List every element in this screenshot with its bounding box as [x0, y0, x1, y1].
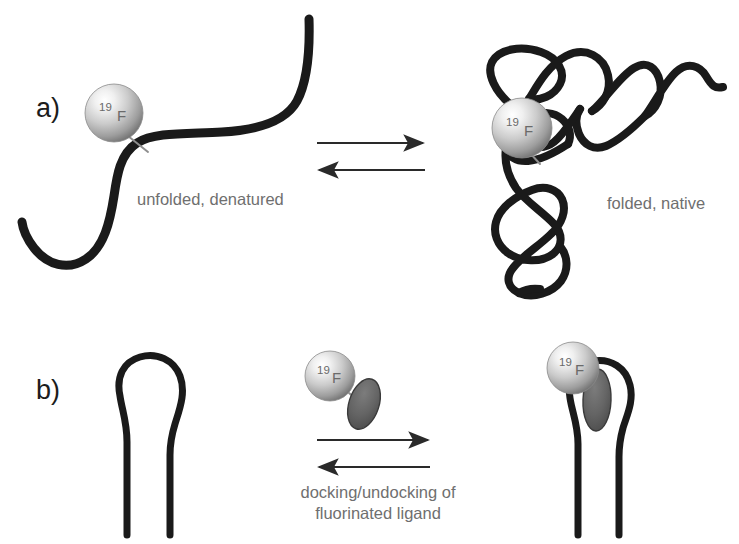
- panel-b-label: b): [36, 375, 60, 405]
- unfolded-state-label: unfolded, denatured: [137, 190, 284, 208]
- fluorine-element-symbol-folded: F: [524, 122, 533, 139]
- figure-root: a) 19 F unfolded, denatured: [0, 0, 739, 544]
- fluorine-label-folded: [492, 98, 552, 158]
- fluorine-mass-number-unfolded: 19: [99, 101, 112, 113]
- fluorine-mass-number-free-ligand: 19: [317, 364, 330, 376]
- docked-fluorinated-ligand: 19 F: [547, 342, 612, 431]
- caption-line-1: docking/undocking of: [300, 483, 455, 501]
- fluorine-label-unfolded: [85, 84, 143, 142]
- fluorine-mass-number-docked-ligand: 19: [559, 356, 572, 368]
- hairpin-undocked: [119, 356, 183, 535]
- free-fluorinated-ligand: 19 F: [305, 351, 386, 433]
- fluorine-element-symbol-unfolded: F: [117, 107, 126, 124]
- panel-a-label: a): [36, 93, 60, 123]
- equilibrium-arrows-panel-a: [317, 143, 425, 170]
- fluorine-label-docked-ligand: [547, 342, 599, 394]
- equilibrium-arrows-panel-b: [317, 440, 430, 467]
- figure-canvas: a) 19 F unfolded, denatured: [0, 0, 739, 544]
- caption-line-2: fluorinated ligand: [315, 504, 441, 522]
- fluorine-element-symbol-docked-ligand: F: [575, 361, 584, 378]
- folded-state-label: folded, native: [607, 194, 705, 212]
- fluorine-mass-number-folded: 19: [506, 116, 519, 128]
- fluorine-element-symbol-free-ligand: F: [332, 369, 341, 386]
- fluorine-label-free-ligand: [305, 351, 355, 401]
- folded-protein-chain: [490, 49, 723, 296]
- unfolded-protein-chain: [22, 19, 309, 265]
